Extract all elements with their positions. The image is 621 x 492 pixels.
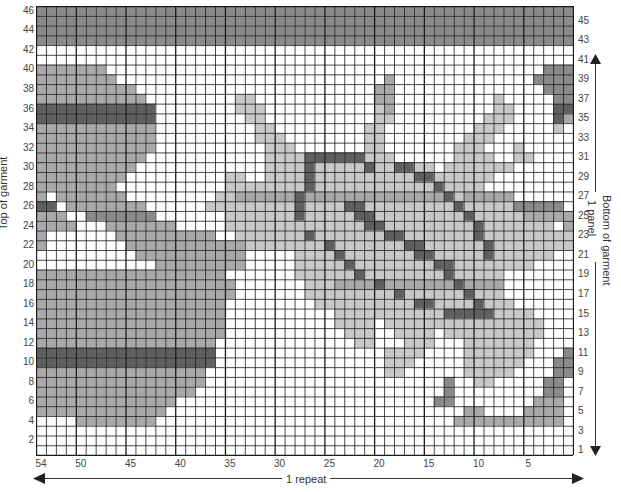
row-label-right: 9: [578, 367, 600, 377]
row-label-right: 19: [578, 269, 600, 279]
row-label-right: 11: [578, 348, 600, 358]
row-label-left: 46: [12, 6, 34, 16]
row-label-right: 39: [578, 74, 600, 84]
stitch-label: 5: [516, 458, 540, 469]
row-label-left: 14: [12, 318, 34, 328]
row-label-left: 16: [12, 299, 34, 309]
row-label-right: 5: [578, 406, 600, 416]
row-label-left: 2: [12, 435, 34, 445]
row-label-right: 3: [578, 426, 600, 436]
row-label-left: 28: [12, 182, 34, 192]
stitch-label: 45: [119, 458, 143, 469]
row-label-left: 36: [12, 104, 34, 114]
one-repeat-label: 1 repeat: [282, 473, 330, 485]
stitch-label: 20: [367, 458, 391, 469]
row-label-left: 34: [12, 123, 34, 133]
row-label-left: 12: [12, 338, 34, 348]
row-label-right: 33: [578, 133, 600, 143]
stitch-label: 50: [69, 458, 93, 469]
row-label-right: 15: [578, 309, 600, 319]
row-label-left: 8: [12, 377, 34, 387]
stitch-label: 25: [317, 458, 341, 469]
row-label-right: 35: [578, 113, 600, 123]
row-label-left: 20: [12, 260, 34, 270]
row-label-right: 31: [578, 152, 600, 162]
stitch-label: 10: [467, 458, 491, 469]
row-label-right: 43: [578, 35, 600, 45]
top-of-garment-label: Top of garment: [0, 157, 9, 230]
bottom-of-garment-label: Bottom of garment: [601, 195, 613, 286]
row-label-left: 44: [12, 25, 34, 35]
row-label-left: 24: [12, 221, 34, 231]
row-label-right: 45: [578, 16, 600, 26]
row-label-left: 6: [12, 396, 34, 406]
stitch-label: 40: [168, 458, 192, 469]
one-panel-label: 1 panel: [586, 200, 598, 236]
stitch-label: 30: [268, 458, 292, 469]
chart-cells: [36, 6, 574, 456]
row-label-left: 4: [12, 416, 34, 426]
arrow-up-icon: [590, 54, 601, 64]
row-label-left: 32: [12, 143, 34, 153]
stitch-label: 15: [417, 458, 441, 469]
row-label-left: 38: [12, 84, 34, 94]
row-label-right: 13: [578, 328, 600, 338]
row-label-right: 37: [578, 94, 600, 104]
row-label-left: 22: [12, 240, 34, 250]
row-label-left: 10: [12, 357, 34, 367]
arrow-right-icon: [572, 473, 584, 484]
arrow-left-icon: [33, 473, 45, 484]
stitch-label: 54: [29, 458, 53, 469]
row-label-right: 17: [578, 289, 600, 299]
stitch-label: 35: [218, 458, 242, 469]
row-label-left: 18: [12, 279, 34, 289]
knitting-chart-grid: [36, 6, 573, 455]
arrow-down-icon: [590, 446, 601, 456]
row-label-right: 7: [578, 387, 600, 397]
row-label-right: 21: [578, 250, 600, 260]
row-label-left: 26: [12, 201, 34, 211]
row-label-right: 29: [578, 172, 600, 182]
row-label-left: 42: [12, 45, 34, 55]
row-label-left: 30: [12, 162, 34, 172]
row-label-left: 40: [12, 64, 34, 74]
